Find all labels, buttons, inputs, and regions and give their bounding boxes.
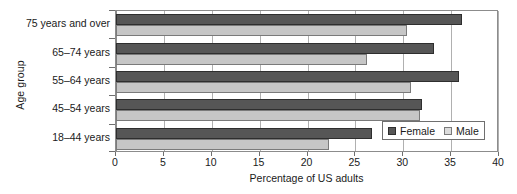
y-axis-tick [109, 124, 115, 125]
x-axis-tick-label: 5 [160, 156, 166, 168]
legend-label: Female [400, 125, 435, 137]
x-axis-tick-label: 15 [253, 156, 265, 168]
bar-group [116, 43, 497, 65]
bar-group [116, 14, 497, 36]
y-axis-tick-labels: 18–44 years45–54 years55–64 years65–74 y… [18, 10, 110, 152]
y-axis-ticks [109, 10, 116, 152]
gridline [498, 11, 499, 152]
y-axis-tick [109, 38, 115, 39]
bar-female [116, 43, 434, 54]
y-axis-tick [109, 67, 115, 68]
x-axis-tick-label: 35 [444, 156, 456, 168]
bar-female [116, 128, 372, 139]
bar-female [116, 71, 459, 82]
bar-female [116, 99, 422, 110]
legend-swatch-icon [388, 127, 396, 135]
x-axis-tick-label: 20 [301, 156, 313, 168]
y-axis-tick-label: 75 years and over [26, 18, 110, 29]
x-axis-tick-label: 0 [112, 156, 118, 168]
y-axis-tick [109, 10, 115, 11]
legend-item-female: Female [388, 125, 435, 137]
x-axis-title: Percentage of US adults [115, 172, 498, 184]
x-axis-tick-label: 25 [349, 156, 361, 168]
x-axis-tick-label: 10 [205, 156, 217, 168]
legend-item-male: Male [444, 125, 479, 137]
bar-male [116, 25, 407, 36]
bar-male [116, 54, 367, 65]
bar-group [116, 99, 497, 121]
x-axis-tick-label: 40 [492, 156, 504, 168]
y-axis-tick-label: 45–54 years [52, 103, 110, 114]
bar-male [116, 82, 411, 93]
bar-male [116, 139, 329, 150]
bar-female [116, 14, 462, 25]
bar-male [116, 110, 420, 121]
y-axis-tick-label: 55–64 years [52, 75, 110, 86]
chart-legend: FemaleMale [382, 121, 485, 140]
legend-swatch-icon [444, 127, 452, 135]
y-axis-tick-label: 18–44 years [52, 132, 110, 143]
x-axis-tick-labels: 0510152025303540 [115, 156, 498, 170]
bar-chart: Age group 18–44 years45–54 years55–64 ye… [0, 0, 517, 194]
bar-group [116, 71, 497, 93]
y-axis-tick [109, 95, 115, 96]
x-axis-tick-label: 30 [396, 156, 408, 168]
legend-label: Male [456, 125, 479, 137]
y-axis-tick-label: 65–74 years [52, 47, 110, 58]
